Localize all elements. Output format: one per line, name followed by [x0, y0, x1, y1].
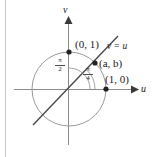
line-label-v-equals-u: v = u	[107, 42, 127, 52]
pi-over-2-denominator: 2	[55, 66, 65, 73]
figure-canvas	[0, 0, 153, 157]
point-dot-0-1	[66, 49, 71, 54]
pi-over-4-denominator: 4	[83, 75, 93, 82]
point-dot-1-0	[103, 86, 108, 91]
angle-label-pi-over-4: π 4	[83, 66, 93, 83]
point-label-a-b: (a, b)	[99, 58, 122, 69]
u-axis-label: u	[141, 84, 146, 94]
point-dot-a-b	[92, 60, 97, 65]
unit-circle-figure: v u (0, 1) (a, b) (1, 0) v = u π 2 π 4	[0, 0, 153, 157]
v-axis-label: v	[63, 5, 67, 15]
u-axis-arrow-icon	[131, 86, 139, 94]
pi-over-2-numerator: π	[55, 57, 65, 64]
angle-label-pi-over-2: π 2	[55, 57, 65, 74]
point-label-1-0: (1, 0)	[105, 74, 129, 85]
point-label-0-1: (0, 1)	[75, 39, 99, 50]
pi-over-4-numerator: π	[83, 66, 93, 73]
v-axis-arrow-icon	[65, 16, 73, 24]
